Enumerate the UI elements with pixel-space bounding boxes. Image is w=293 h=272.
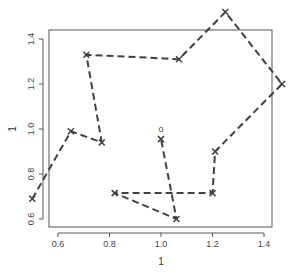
x-tick-label: 1.2 <box>206 239 219 249</box>
x-axis: 0.60.81.01.21.4 <box>52 233 271 249</box>
x-marker-icon <box>212 149 218 155</box>
x-marker-icon <box>279 81 285 87</box>
y-tick-label: 0.8 <box>26 168 36 181</box>
x-tick-label: 1.0 <box>155 239 168 249</box>
x-tick-label: 0.6 <box>52 239 65 249</box>
y-tick-label: 1.0 <box>26 123 36 136</box>
annotation-text: o <box>158 124 163 134</box>
x-axis-title: 1 <box>158 256 164 267</box>
y-tick-label: 0.6 <box>26 213 36 226</box>
x-marker-icon <box>29 196 35 202</box>
x-marker-icon <box>222 9 228 15</box>
x-tick-label: 0.8 <box>103 239 116 249</box>
data-series <box>29 9 285 222</box>
plot-canvas: 0.60.81.01.21.4 0.60.81.01.21.4 o 1 1 <box>0 0 293 272</box>
y-axis-title: 1 <box>7 126 18 132</box>
x-tick-label: 1.4 <box>258 239 271 249</box>
series-line <box>32 12 282 219</box>
y-tick-label: 1.2 <box>26 78 36 91</box>
annotations: o <box>158 124 163 134</box>
y-tick-label: 1.4 <box>26 33 36 46</box>
